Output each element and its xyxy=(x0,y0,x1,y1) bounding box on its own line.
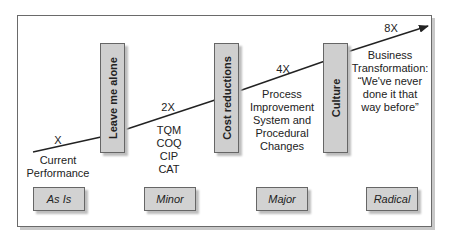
description-radical: Business Transformation: “We've never do… xyxy=(352,49,429,114)
description-minor: TQM COQ CIP CAT xyxy=(156,124,181,176)
multiplier-4x: 4X xyxy=(276,63,289,76)
barrier-cost-reductions: Cost reductions xyxy=(214,43,239,153)
description-major: Process Improvement System and Procedura… xyxy=(250,88,314,153)
barrier-label: Cost reductions xyxy=(221,56,233,140)
stage-minor: Minor xyxy=(144,187,196,211)
multiplier-8x: 8X xyxy=(384,22,397,35)
description-as-is: Current Performance xyxy=(27,154,90,180)
stage-major: Major xyxy=(256,187,308,211)
multiplier-x: X xyxy=(54,134,61,147)
barrier-label: Leave me alone xyxy=(107,57,119,139)
stage-radical: Radical xyxy=(366,187,418,211)
barrier-culture: Culture xyxy=(323,43,348,153)
barrier-leave-me-alone: Leave me alone xyxy=(100,43,125,153)
barrier-label: Culture xyxy=(330,79,342,118)
multiplier-2x: 2X xyxy=(161,101,174,114)
stage-as-is: As Is xyxy=(33,187,85,211)
